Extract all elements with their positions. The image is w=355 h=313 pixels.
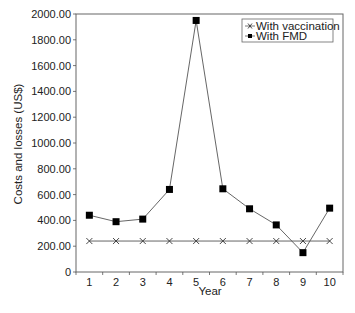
chart: 0200.00400.00600.00800.001000.001200.001… xyxy=(0,0,355,313)
legend-label: With FMD xyxy=(256,30,307,42)
y-tick-label: 1600.00 xyxy=(31,60,71,72)
series-with-fmd xyxy=(86,17,333,256)
plot-border xyxy=(76,14,343,272)
y-tick-label: 600.00 xyxy=(37,189,71,201)
square-marker-icon xyxy=(273,221,280,228)
x-tick-label: 8 xyxy=(273,276,279,288)
y-axis: 0200.00400.00600.00800.001000.001200.001… xyxy=(31,8,76,278)
x-tick-label: 10 xyxy=(324,276,336,288)
y-tick-label: 1800.00 xyxy=(31,34,71,46)
x-tick-label: 9 xyxy=(300,276,306,288)
y-tick-label: 1200.00 xyxy=(31,111,71,123)
legend: With vaccination With FMD xyxy=(242,19,340,42)
series-line xyxy=(89,20,329,252)
square-marker-icon xyxy=(86,212,93,219)
x-tick-label: 1 xyxy=(86,276,92,288)
plot-area xyxy=(76,14,343,272)
square-marker-icon xyxy=(139,216,146,223)
series-with-vaccination xyxy=(86,238,332,244)
x-tick-label: 3 xyxy=(140,276,146,288)
x-axis-title: Year xyxy=(198,285,221,297)
y-axis-title: Costs and losses (US$) xyxy=(12,83,24,204)
x-tick-label: 4 xyxy=(166,276,172,288)
y-tick-label: 2000.00 xyxy=(31,8,71,20)
y-tick-label: 400.00 xyxy=(37,214,71,226)
square-marker-icon xyxy=(193,17,200,24)
y-tick-label: 200.00 xyxy=(37,240,71,252)
square-marker-icon xyxy=(299,249,306,256)
y-tick-label: 1000.00 xyxy=(31,137,71,149)
series-layer xyxy=(86,17,333,256)
square-marker-icon xyxy=(166,186,173,193)
x-tick-label: 2 xyxy=(113,276,119,288)
square-marker-icon xyxy=(248,34,252,38)
square-marker-icon xyxy=(219,185,226,192)
x-tick-label: 7 xyxy=(246,276,252,288)
square-marker-icon xyxy=(246,205,253,212)
y-tick-label: 0 xyxy=(65,266,71,278)
y-tick-label: 800.00 xyxy=(37,163,71,175)
square-marker-icon xyxy=(113,218,120,225)
line-chart: 0200.00400.00600.00800.001000.001200.001… xyxy=(0,0,355,313)
y-tick-label: 1400.00 xyxy=(31,85,71,97)
square-marker-icon xyxy=(326,205,333,212)
